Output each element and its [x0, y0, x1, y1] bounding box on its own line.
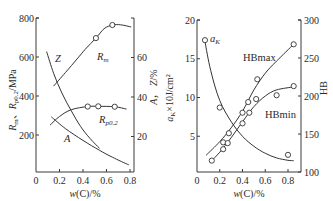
data-point-marker [209, 158, 214, 163]
curve-label-Rp02: Rp0.2 [98, 114, 118, 127]
y-tick-label: 400 [19, 91, 34, 102]
y-right-tick-label: 300 [304, 15, 319, 26]
y-right-tick-label: 100 [304, 167, 319, 178]
curve-label-Z: Z [55, 53, 61, 64]
chart-left-strength-ductility: 00.20.40.60.8200400600800204060w(C)/%Rm、… [7, 13, 159, 201]
x-tick-label: 0.6 [100, 175, 113, 186]
data-point-marker [112, 104, 117, 109]
axis-frame [36, 18, 134, 172]
data-point-marker [247, 110, 252, 115]
data-point-marker [225, 141, 230, 146]
y-tick-label: 15 [185, 53, 195, 64]
curve-label-aK: aK [210, 33, 220, 46]
y-right-tick-label: 150 [304, 129, 319, 140]
x-tick-label: 0.4 [77, 175, 90, 186]
y-tick-label: 5 [190, 131, 195, 142]
series-curve-Rm [54, 25, 132, 87]
curve-label-Rm: Rm [96, 51, 108, 64]
data-point-marker [202, 38, 207, 43]
x-tick-label: 0.2 [53, 175, 66, 186]
x-tick-label: 0 [195, 175, 200, 186]
x-tick-label: 0.6 [259, 175, 272, 186]
chart-canvas: 00.20.40.60.8200400600800204060w(C)/%Rm、… [0, 0, 333, 201]
y-tick-label: 800 [19, 13, 34, 24]
data-point-marker [240, 121, 245, 126]
data-point-marker [274, 93, 279, 98]
data-point-marker [226, 131, 231, 136]
curve-label-HBmax: HBmax [243, 52, 276, 63]
y-right-tick-label: 60 [137, 52, 147, 63]
data-point-marker [255, 77, 260, 82]
y-right-tick-label: 250 [304, 53, 319, 64]
y-right-axis-title: HB [318, 81, 329, 95]
y-axis-title: aK×10J/cm² [164, 74, 177, 122]
y-right-tick-label: 20 [137, 131, 147, 142]
data-point-marker [246, 99, 251, 104]
data-point-marker [291, 84, 296, 89]
y-axis-title: Rm、Rp0.2/MPa [7, 69, 20, 132]
data-point-marker [285, 152, 290, 157]
data-point-marker [96, 104, 101, 109]
chart-right-impact-hardness: 00.20.40.60.85101520100150200250300w(C)/… [164, 15, 329, 201]
y-tick-label: 600 [19, 52, 34, 63]
y-tick-label: 10 [185, 92, 195, 103]
x-tick-label: 0.8 [282, 175, 295, 186]
x-tick-label: 0.4 [236, 175, 249, 186]
data-point-marker [93, 35, 98, 40]
data-point-marker [221, 147, 226, 152]
data-point-marker [110, 22, 115, 27]
data-point-marker [217, 105, 222, 110]
y-tick-label: 20 [185, 15, 195, 26]
x-tick-label: 0 [34, 175, 39, 186]
y-right-axis-title: A， Z/% [148, 69, 159, 105]
curve-label-HBmin: HBmin [265, 109, 297, 120]
data-point-marker [240, 110, 245, 115]
data-point-marker [85, 104, 90, 109]
x-axis-title: w(C)/% [69, 188, 100, 200]
data-point-marker [291, 42, 296, 47]
y-right-tick-label: 40 [137, 92, 147, 103]
figure: 00.20.40.60.8200400600800204060w(C)/%Rm、… [0, 0, 333, 201]
x-tick-label: 0.8 [124, 175, 137, 186]
x-axis-title: w(C)/% [233, 188, 264, 200]
x-tick-label: 0.2 [214, 175, 227, 186]
y-right-tick-label: 200 [304, 91, 319, 102]
y-tick-label: 200 [19, 130, 34, 141]
data-point-marker [254, 96, 259, 101]
curve-label-A: A [63, 133, 71, 144]
